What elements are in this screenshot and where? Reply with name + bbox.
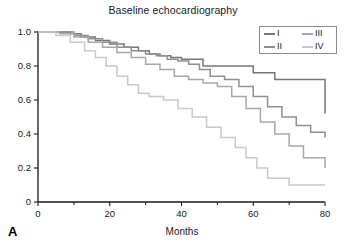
- svg-text:20: 20: [104, 208, 115, 219]
- legend-swatch-iii-icon: [302, 33, 313, 35]
- legend-swatch-i-icon: [264, 33, 275, 35]
- legend-label: I: [277, 29, 280, 38]
- panel-label: A: [8, 224, 18, 239]
- legend: IIIIIIIV: [259, 26, 337, 54]
- legend-item-iii: III: [298, 29, 336, 38]
- legend-label: II: [277, 42, 282, 51]
- svg-text:0: 0: [26, 196, 31, 207]
- legend-label: III: [315, 29, 323, 38]
- legend-item-iv: IV: [298, 42, 336, 51]
- legend-item-ii: II: [260, 42, 298, 51]
- tick-labels: 00.20.40.60.81.0020406080: [18, 26, 331, 219]
- svg-text:0.6: 0.6: [18, 94, 31, 105]
- svg-text:0.4: 0.4: [18, 128, 31, 139]
- svg-text:1.0: 1.0: [18, 26, 31, 37]
- svg-text:0: 0: [35, 208, 40, 219]
- legend-item-i: I: [260, 29, 298, 38]
- svg-text:40: 40: [176, 208, 187, 219]
- curve-lines: [38, 32, 325, 185]
- svg-text:0.2: 0.2: [18, 162, 31, 173]
- legend-swatch-ii-icon: [264, 46, 275, 48]
- svg-text:0.8: 0.8: [18, 60, 31, 71]
- figure-panel: Baseline echocardiography 00.20.40.60.81…: [0, 0, 346, 247]
- legend-label: IV: [315, 42, 324, 51]
- legend-swatch-iv-icon: [302, 46, 313, 48]
- svg-text:60: 60: [248, 208, 259, 219]
- x-axis-title: Months: [38, 226, 326, 237]
- svg-text:80: 80: [320, 208, 331, 219]
